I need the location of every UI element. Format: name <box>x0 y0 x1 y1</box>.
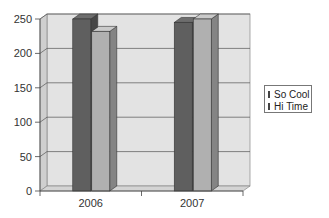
bar-hi-time-2006 <box>92 26 117 191</box>
legend-swatch-icon <box>268 103 270 110</box>
x-tick-label: 2007 <box>180 197 204 209</box>
legend-swatch-icon <box>268 91 270 98</box>
legend: So Cool Hi Time <box>264 85 312 113</box>
legend-item-hi-time: Hi Time <box>268 100 308 112</box>
legend-label: So Cool <box>274 89 310 100</box>
y-tick-label: 0 <box>26 185 32 197</box>
y-tick-label: 50 <box>20 151 32 163</box>
y-tick-label: 100 <box>14 116 32 128</box>
bar-hi-time-2007 <box>193 14 218 191</box>
x-tick-label: 2006 <box>79 197 103 209</box>
y-tick-label: 150 <box>14 82 32 94</box>
y-tick-label: 250 <box>14 13 32 25</box>
legend-item-so-cool: So Cool <box>268 88 308 100</box>
y-tick-label: 200 <box>14 47 32 59</box>
legend-label: Hi Time <box>274 101 308 112</box>
